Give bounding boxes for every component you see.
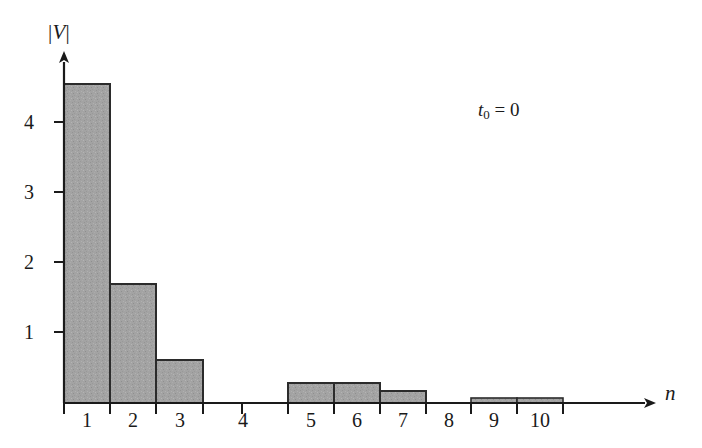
x-axis-title: n	[665, 381, 676, 406]
chart-canvas	[0, 0, 702, 448]
y-tick-label-1: 1	[0, 321, 34, 344]
annotation-t0: t0 = 0	[478, 99, 520, 123]
bar-n2	[110, 284, 156, 403]
x-tick-label-8: 8	[426, 409, 472, 432]
x-tick-label-5: 5	[288, 409, 334, 432]
y-tick-label-4: 4	[0, 111, 34, 134]
y-tick-label-2: 2	[0, 251, 34, 274]
x-tick-label-1: 1	[64, 409, 110, 432]
x-tick-label-9: 9	[471, 409, 517, 432]
x-tick-label-6: 6	[334, 409, 380, 432]
bar-n1	[64, 84, 110, 403]
y-axis-title: |V|	[48, 20, 70, 45]
annotation-equals: =	[490, 99, 510, 120]
x-tick-label-4: 4	[220, 409, 266, 432]
bar-n7	[380, 391, 426, 403]
bars-group	[64, 84, 563, 403]
x-tick-label-2: 2	[110, 409, 156, 432]
y-axis-ticks	[54, 122, 64, 332]
bar-n5	[288, 383, 334, 403]
y-axis-title-bar-right: |	[65, 20, 69, 44]
x-tick-label-10: 10	[517, 409, 563, 432]
x-tick-label-3: 3	[157, 409, 203, 432]
x-tick-label-7: 7	[380, 409, 426, 432]
y-tick-label-3: 3	[0, 181, 34, 204]
bar-n3	[156, 360, 203, 403]
y-axis-title-variable: V	[52, 20, 65, 44]
chart-figure: |V| n t0 = 0 1 2 3 4 1 2 3 4 5 6 7 8 9 1…	[0, 0, 702, 448]
annotation-value: 0	[510, 99, 520, 120]
bar-n6	[334, 383, 380, 403]
